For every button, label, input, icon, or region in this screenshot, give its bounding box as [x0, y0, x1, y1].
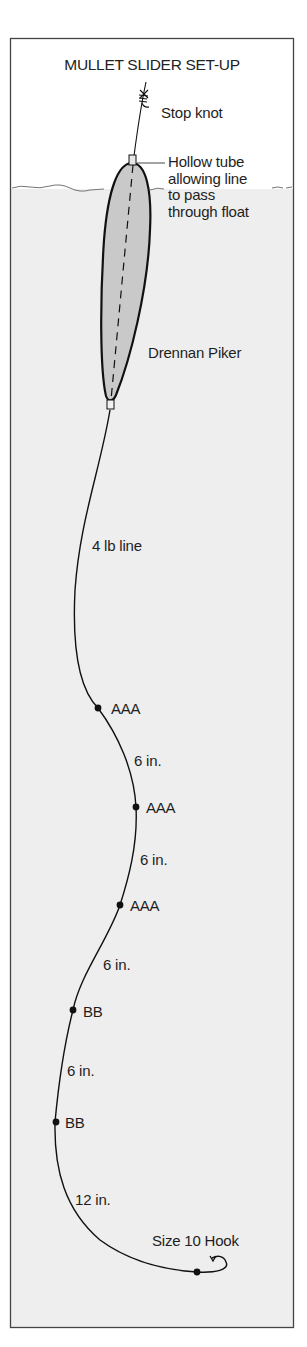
split-shot-icon	[95, 705, 102, 712]
label-stop-knot: Stop knot	[161, 104, 223, 121]
label-line-strength: 4 lb line	[92, 537, 142, 554]
label-shot-2: AAA	[146, 799, 175, 816]
label-gap-4: 6 in.	[67, 1062, 94, 1079]
split-shot-icon	[117, 902, 124, 909]
label-float-name: Drennan Piker	[148, 344, 241, 361]
diagram-title: MULLET SLIDER SET-UP	[10, 56, 294, 74]
label-gap-1: 6 in.	[134, 752, 161, 769]
split-shot-icon	[133, 804, 140, 811]
label-hollow-tube: Hollow tube allowing line to pass throug…	[168, 154, 249, 220]
label-hook: Size 10 Hook	[152, 1232, 239, 1249]
label-shot-5: BB	[65, 1114, 85, 1131]
label-shot-4: BB	[83, 1003, 103, 1020]
float-tube-bottom	[107, 400, 114, 409]
label-shot-3: AAA	[130, 897, 159, 914]
float-tube-top	[129, 155, 136, 165]
label-gap-5: 12 in.	[75, 1191, 111, 1208]
label-gap-2: 6 in.	[140, 851, 167, 868]
split-shot-icon	[53, 1119, 60, 1126]
split-shot-icon	[70, 1007, 77, 1014]
rig-diagram	[0, 0, 307, 1347]
water-surface-line-far-right	[272, 187, 292, 188]
label-shot-1: AAA	[111, 700, 140, 717]
label-gap-3: 6 in.	[103, 956, 130, 973]
